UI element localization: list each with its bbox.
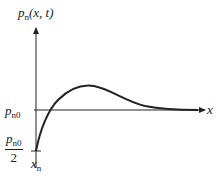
level-label: pn0: [5, 104, 21, 120]
y-axis-label: pn(x, t): [18, 6, 54, 22]
half-level-label: pn0 2: [5, 132, 23, 164]
origin-label: xn: [31, 157, 41, 173]
diagram-canvas: [0, 0, 218, 177]
x-axis-label: x: [207, 103, 213, 116]
concentration-curve: [36, 86, 198, 151]
